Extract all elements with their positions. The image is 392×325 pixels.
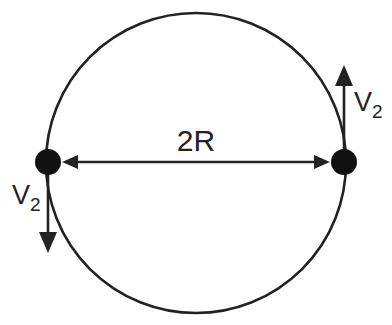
- right-velocity-label: V2: [354, 87, 383, 122]
- orbit-diagram: 2R V2 V2: [0, 0, 392, 325]
- left-body: [35, 149, 61, 175]
- distance-label: 2R: [177, 124, 215, 157]
- right-body: [331, 149, 357, 175]
- left-velocity-label: V2: [12, 180, 41, 215]
- distance-arrow: [62, 155, 330, 169]
